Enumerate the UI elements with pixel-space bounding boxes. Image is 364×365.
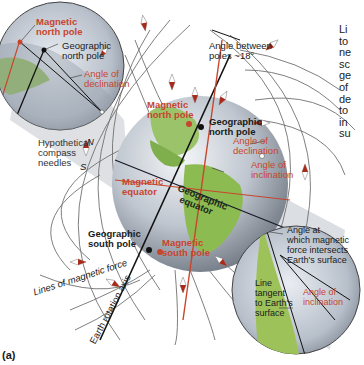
panel-label: (a) xyxy=(2,350,15,360)
angle-between-poles-label: Angle betweenpoles ~18° xyxy=(209,41,272,61)
compass-n-label: N xyxy=(87,137,94,147)
magnetic-equator-label: Magneticequator xyxy=(122,177,163,197)
angle-of-declination-label: Angle ofdeclination xyxy=(233,136,278,156)
side-text-fragment: Li to ne sc ge of de to in su xyxy=(339,24,351,140)
geographic-north-pole-marker xyxy=(198,124,204,130)
inset-angle-of-inclination-label: Angle ofinclination xyxy=(303,287,343,307)
geographic-north-pole-label: Geographicnorth pole xyxy=(209,117,262,137)
angle-of-inclination-label: Angle ofinclination xyxy=(251,160,293,180)
compass-s-label: S xyxy=(80,162,86,172)
geographic-south-pole-label: Geographicsouth pole xyxy=(88,229,141,249)
angle-at-intersection-label: Angle atwhich magneticforce intersectsEa… xyxy=(287,225,349,265)
magnetic-south-pole-label: Magneticsouth pole xyxy=(162,238,210,258)
earth-magnetic-field-diagram: Magneticnorth pole Geographicnorth pole … xyxy=(0,0,364,365)
inset-angle-of-declination-label: Angle ofdeclination xyxy=(84,69,129,89)
inset-geographic-north-pole-label: Geographicnorth pole xyxy=(62,41,111,61)
inset-magnetic-north-pole-label: Magneticnorth pole xyxy=(36,17,82,37)
angle-between-poles-bracket xyxy=(212,30,240,40)
magnetic-north-pole-label: Magneticnorth pole xyxy=(147,100,193,120)
geographic-south-pole-marker xyxy=(146,247,152,253)
line-tangent-label: Linetangentto Earth'ssurface xyxy=(255,278,293,318)
magnetic-north-pole-marker xyxy=(186,121,192,127)
